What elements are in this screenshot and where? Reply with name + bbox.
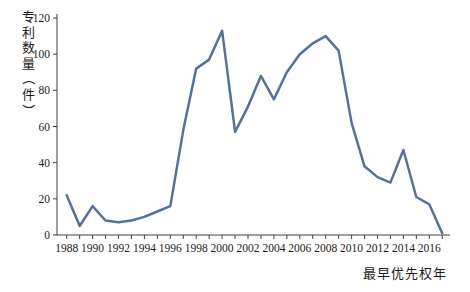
x-axis-tick-label: 2016 <box>418 242 441 254</box>
x-axis-title: 最早优先权年 <box>363 263 447 282</box>
y-axis-title-char: 量 <box>22 56 35 72</box>
y-axis-tick-label: 40 <box>39 157 51 169</box>
y-axis-title: 专利数量（件） <box>20 9 36 118</box>
x-axis-tick-label: 2002 <box>237 242 260 254</box>
y-axis-tick-label: 0 <box>44 229 50 241</box>
patent-trend-chart-container: 0204060801001201988199019921994199619982… <box>0 0 470 292</box>
x-axis-tick-label: 1994 <box>133 242 156 254</box>
y-axis-tick-label: 20 <box>39 193 51 205</box>
x-axis-tick-label: 1996 <box>159 242 182 254</box>
y-axis-title-char: 数 <box>22 40 35 56</box>
y-axis-title-char: 件 <box>22 87 35 103</box>
patent-count-trend-line <box>67 31 443 234</box>
x-axis-tick-label: 1998 <box>185 242 208 254</box>
y-axis-title-char: 利 <box>22 25 35 41</box>
x-axis-tick-label: 2004 <box>262 242 285 254</box>
x-axis-tick-label: 2010 <box>340 242 363 254</box>
x-axis-tick-label: 1992 <box>107 242 130 254</box>
axes <box>57 14 450 235</box>
x-axis-tick-label: 2012 <box>366 242 389 254</box>
y-axis-title-paren: ） <box>20 104 36 117</box>
y-axis-tick-label: 60 <box>39 121 51 133</box>
x-axis-tick-label: 2006 <box>288 242 311 254</box>
y-axis-tick-label: 80 <box>39 84 51 96</box>
y-axis-title-paren: （ <box>20 73 36 86</box>
x-axis-tick-label: 2014 <box>392 242 415 254</box>
y-axis-title-char: 专 <box>22 9 35 25</box>
x-axis-tick-label: 2000 <box>211 242 234 254</box>
x-axis-tick-label: 1988 <box>55 242 78 254</box>
x-axis-tick-label: 1990 <box>81 242 104 254</box>
line-chart-canvas: 0204060801001201988199019921994199619982… <box>0 0 470 292</box>
x-axis-tick-label: 2008 <box>314 242 337 254</box>
